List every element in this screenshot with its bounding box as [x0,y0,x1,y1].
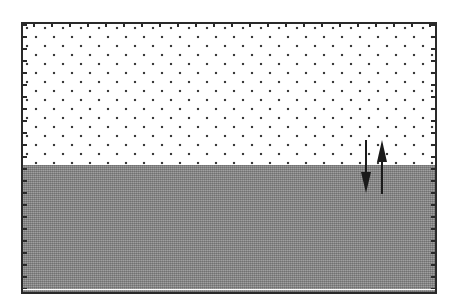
diagram-frame [21,22,437,294]
bottom-edge-line [23,289,435,290]
top-edge-ticks [23,24,435,27]
right-edge-ticks [431,24,435,292]
lower-shaded-layer [23,165,435,292]
upper-dotted-layer [23,24,435,165]
left-edge-ticks [23,24,27,292]
